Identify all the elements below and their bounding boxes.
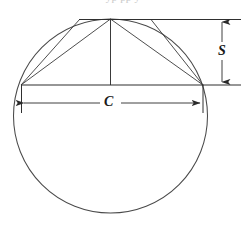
chord-dimension-label: C <box>104 95 113 109</box>
circle-chord-sagitta-diagram <box>0 0 246 232</box>
left-chord-to-shoulder-line <box>21 20 80 86</box>
right-chord-to-apex-line <box>111 19 204 85</box>
left-chord-to-apex-line <box>21 19 111 85</box>
right-chord-to-shoulder-line <box>151 20 203 86</box>
figure-container: yp pp y <box>0 0 246 232</box>
sagitta-dimension-label: S <box>218 44 226 58</box>
